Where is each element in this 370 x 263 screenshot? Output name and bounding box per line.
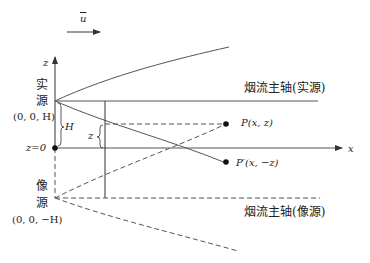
origin-point (52, 145, 58, 151)
wind-label: u (80, 14, 86, 24)
image-plume-axis-label: 烟流主轴(像源) (244, 206, 325, 218)
real-plume-axis-label: 烟流主轴(实源) (244, 82, 325, 94)
point-p-label: P(x, z) (241, 118, 273, 128)
h-brace (58, 103, 64, 146)
image-source-coord: (0, 0, −H) (12, 215, 62, 225)
origin-label: z=0 (26, 143, 46, 153)
point-p-prime (223, 159, 229, 165)
h-label: H (65, 122, 74, 132)
image-plume-lower-boundary (55, 198, 238, 251)
z-brace-label: z (88, 131, 93, 141)
real-plume-upper-boundary (55, 47, 229, 101)
point-p (223, 121, 229, 127)
image-source-label-2: 源 (36, 197, 48, 209)
z-brace (97, 125, 103, 148)
real-source-label-1: 实 (36, 79, 48, 91)
real-source-label-2: 源 (36, 95, 48, 107)
real-source-coord: (0, 0, H) (13, 112, 55, 122)
image-plume-upper-boundary (55, 124, 226, 198)
image-source-label-1: 像 (36, 180, 48, 192)
real-plume-lower-boundary (55, 101, 226, 163)
x-axis-label: x (348, 144, 354, 154)
point-p-prime-label: P′(x, −z) (236, 158, 278, 168)
z-axis-label: z (43, 58, 48, 68)
